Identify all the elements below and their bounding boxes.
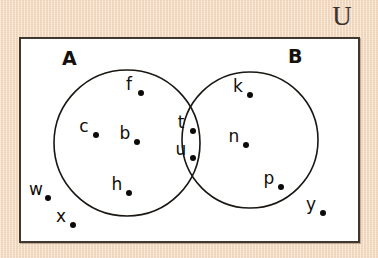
element-dot-n [243, 142, 249, 148]
element-label-y: y [302, 196, 320, 213]
element-dot-f [138, 90, 144, 96]
element-label-c: c [75, 118, 93, 135]
element-label-w: w [27, 181, 45, 198]
element-label-k: k [229, 78, 247, 95]
element-label-t: t [172, 114, 190, 131]
element-dot-t [190, 128, 196, 134]
set-b-label: B [288, 45, 302, 67]
element-dot-u [190, 155, 196, 161]
element-label-f: f [120, 76, 138, 93]
element-label-n: n [225, 128, 243, 145]
element-label-u: u [172, 141, 190, 158]
element-label-h: h [108, 176, 126, 193]
element-label-p: p [260, 170, 278, 187]
element-dot-w [45, 195, 51, 201]
element-dot-h [126, 190, 132, 196]
element-dot-y [320, 210, 326, 216]
element-dot-p [278, 184, 284, 190]
element-dot-c [93, 132, 99, 138]
element-dot-b [134, 139, 140, 145]
element-label-b: b [116, 125, 134, 142]
venn-diagram-page: U A B fcbhtuknpwxy [0, 0, 378, 258]
set-a-label: A [62, 47, 77, 69]
element-label-x: x [52, 208, 70, 225]
element-dot-k [247, 92, 253, 98]
element-dot-x [70, 222, 76, 228]
